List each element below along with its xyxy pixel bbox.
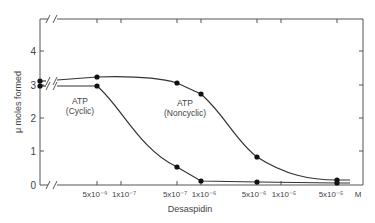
x-axis-label: Desaspidin bbox=[168, 204, 213, 214]
x-tick-labels: 5x10⁻⁹ 1x10⁻⁷ 5x10⁻⁷ 1x10⁻⁶ 5x10⁻⁶ 1x10⁻… bbox=[83, 190, 362, 199]
svg-text:ATP: ATP bbox=[177, 98, 193, 108]
svg-text:5x10⁻⁹: 5x10⁻⁹ bbox=[83, 190, 108, 199]
series-label-noncyclic: ATP (Noncyclic) bbox=[164, 98, 206, 118]
svg-text:3: 3 bbox=[30, 80, 36, 91]
y-axis-label: μ moles formed bbox=[13, 71, 23, 133]
svg-text:1x10⁻⁵: 1x10⁻⁵ bbox=[272, 190, 297, 199]
series-label-cyclic: ATP (Cyclic) bbox=[66, 96, 94, 116]
svg-text:2: 2 bbox=[30, 113, 36, 124]
svg-text:5x10⁻⁷: 5x10⁻⁷ bbox=[163, 190, 187, 199]
svg-text:1: 1 bbox=[30, 146, 36, 157]
svg-text:1x10⁻⁶: 1x10⁻⁶ bbox=[192, 190, 217, 199]
svg-text:1x10⁻⁷: 1x10⁻⁷ bbox=[112, 190, 136, 199]
svg-text:5x10⁻⁶: 5x10⁻⁶ bbox=[242, 190, 267, 199]
y-tick-labels: 0 1 2 3 4 bbox=[30, 46, 36, 191]
plot-frame bbox=[40, 15, 363, 189]
svg-text:(Noncyclic): (Noncyclic) bbox=[164, 108, 206, 118]
data-points bbox=[37, 74, 339, 185]
svg-text:M: M bbox=[355, 190, 362, 199]
svg-text:4: 4 bbox=[30, 46, 36, 57]
svg-text:(Cyclic): (Cyclic) bbox=[66, 106, 94, 116]
chart: 0 1 2 3 4 μ moles formed 5x10⁻⁹ 1x10⁻⁷ 5… bbox=[0, 0, 375, 223]
svg-text:5x10⁻⁵: 5x10⁻⁵ bbox=[319, 190, 344, 199]
series-noncyclic bbox=[40, 77, 350, 180]
svg-text:ATP: ATP bbox=[72, 96, 88, 106]
svg-text:0: 0 bbox=[30, 180, 36, 191]
